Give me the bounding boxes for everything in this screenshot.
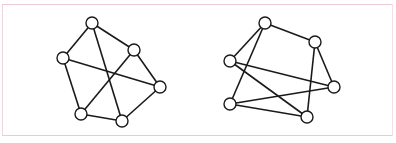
node-A xyxy=(259,17,271,29)
right-graph xyxy=(224,17,340,123)
edge-C-D xyxy=(315,42,334,87)
edge-C-E xyxy=(81,50,134,114)
node-D xyxy=(154,81,166,93)
edge-E-D xyxy=(230,87,334,104)
node-E xyxy=(75,108,87,120)
node-A xyxy=(86,17,98,29)
edge-A-C xyxy=(265,23,315,42)
node-C xyxy=(309,36,321,48)
edge-B-E xyxy=(63,58,81,114)
edge-A-F xyxy=(92,23,122,121)
edge-E-F xyxy=(230,104,307,117)
edge-B-F xyxy=(230,61,307,117)
edge-D-F xyxy=(122,87,160,121)
edge-C-F xyxy=(307,42,315,117)
edge-C-D xyxy=(134,50,160,87)
node-B xyxy=(224,55,236,67)
node-F xyxy=(301,111,313,123)
edge-A-B xyxy=(230,23,265,61)
node-B xyxy=(57,52,69,64)
node-C xyxy=(128,44,140,56)
graph-diagram-canvas xyxy=(0,0,396,143)
node-E xyxy=(224,98,236,110)
left-graph xyxy=(57,17,166,127)
edge-B-D xyxy=(63,58,160,87)
edge-A-B xyxy=(63,23,92,58)
node-D xyxy=(328,81,340,93)
node-F xyxy=(116,115,128,127)
edge-B-D xyxy=(230,61,334,87)
